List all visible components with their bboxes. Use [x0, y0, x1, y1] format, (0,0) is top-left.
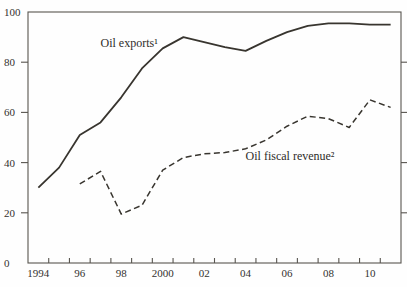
x-axis-label: 02	[199, 267, 210, 279]
y-axis-label: 40	[4, 157, 16, 169]
series-label-oil-fiscal-revenue: Oil fiscal revenue²	[246, 149, 335, 163]
series-line-oil-exports	[38, 23, 390, 187]
x-axis-label: 1994	[27, 267, 50, 279]
chart-svg: 0204060801001994969820000204060810 Oil e…	[0, 0, 407, 287]
x-axis-label: 2000	[152, 267, 175, 279]
x-axis-label: 06	[282, 267, 294, 279]
series-label-oil-exports: Oil exports¹	[101, 36, 159, 50]
y-axis-label: 20	[4, 207, 16, 219]
y-axis-label: 100	[4, 6, 21, 18]
x-axis-label: 98	[116, 267, 128, 279]
y-axis-label: 0	[4, 257, 10, 269]
x-axis-label: 04	[240, 267, 252, 279]
y-axis-label: 60	[4, 106, 16, 118]
y-axis-label: 80	[4, 56, 16, 68]
x-axis-label: 08	[323, 267, 335, 279]
x-axis-label: 96	[74, 267, 86, 279]
series-layer	[38, 23, 390, 214]
series-line-oil-fiscal-revenue	[80, 100, 391, 214]
plot-frame	[28, 12, 401, 263]
x-axis-label: 10	[364, 267, 376, 279]
line-chart: 0204060801001994969820000204060810 Oil e…	[0, 0, 407, 287]
axes-layer: 0204060801001994969820000204060810	[4, 6, 407, 279]
